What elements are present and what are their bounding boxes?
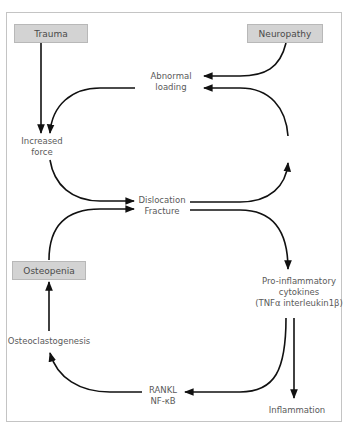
node-neuropathy: Neuropathy bbox=[247, 24, 323, 43]
dislocation-line: Dislocation bbox=[138, 195, 185, 206]
node-inflammation: Inflammation bbox=[269, 405, 326, 416]
node-osteopenia: Osteopenia bbox=[12, 261, 86, 280]
arrow-abnormal-loading-to-increased-force bbox=[50, 88, 135, 133]
pro-inflammatory-line-2: cytokines bbox=[255, 287, 343, 298]
node-osteoclastogenesis: Osteoclastogenesis bbox=[8, 336, 91, 347]
arrow-fracture-to-pro-inflammatory bbox=[190, 210, 288, 269]
pro-inflammatory-line-3: (TNFα interleukin1β) bbox=[255, 298, 343, 309]
abnormal-loading-line-2: loading bbox=[151, 82, 192, 93]
node-rankl-nfkb: RANKL NF-κB bbox=[149, 385, 177, 407]
fracture-line: Fracture bbox=[138, 206, 185, 217]
node-pro-inflammatory-cytokines: Pro-inflammatory cytokines (TNFα interle… bbox=[255, 276, 343, 309]
arrow-increased-force-to-dislocation bbox=[50, 160, 134, 201]
node-neuropathy-label: Neuropathy bbox=[259, 29, 312, 39]
arrow-pro-inflammatory-to-rankl bbox=[185, 318, 286, 392]
rankl-line: RANKL bbox=[149, 385, 177, 396]
arrow-dislocation-to-right-up bbox=[190, 163, 288, 202]
arrow-osteopenia-to-fracture bbox=[49, 209, 134, 260]
arrows-layer bbox=[0, 0, 348, 434]
pro-inflammatory-line-1: Pro-inflammatory bbox=[255, 276, 343, 287]
inflammation-label: Inflammation bbox=[269, 405, 326, 416]
node-osteopenia-label: Osteopenia bbox=[23, 266, 74, 276]
node-trauma: Trauma bbox=[14, 24, 88, 43]
arrow-neuropathy-to-abnormal-loading bbox=[204, 43, 286, 76]
node-dislocation-fracture: Dislocation Fracture bbox=[138, 195, 185, 217]
node-trauma-label: Trauma bbox=[34, 29, 67, 39]
arrow-dislocation-to-abnormal-loading bbox=[204, 88, 288, 136]
increased-force-line-1: Increased bbox=[21, 136, 62, 147]
nfkb-line: NF-κB bbox=[149, 396, 177, 407]
increased-force-line-2: force bbox=[21, 147, 62, 158]
osteoclastogenesis-label: Osteoclastogenesis bbox=[8, 336, 91, 347]
node-increased-force: Increased force bbox=[21, 136, 62, 158]
node-abnormal-loading: Abnormal loading bbox=[151, 71, 192, 93]
abnormal-loading-line-1: Abnormal bbox=[151, 71, 192, 82]
arrow-rankl-to-osteoclastogenesis bbox=[50, 353, 142, 392]
